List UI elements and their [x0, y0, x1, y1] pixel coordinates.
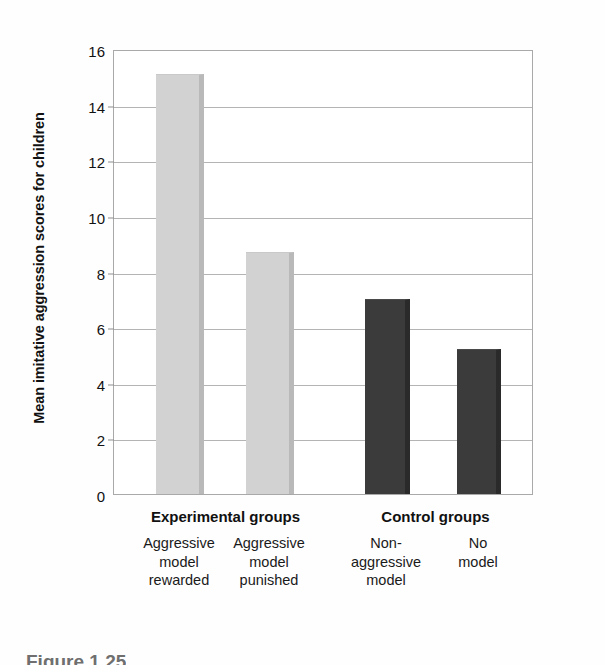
bar-face: [365, 299, 410, 494]
plot-area: 0246810121416: [113, 50, 533, 495]
figure-container: Mean imitative aggression scores for chi…: [0, 0, 605, 665]
y-tick-label: 2: [97, 432, 105, 449]
y-tick-mark: [108, 329, 114, 330]
category-label-line: No: [428, 534, 528, 553]
bar-aggressive-model-rewarded[interactable]: [156, 74, 204, 494]
bar-aggressive-model-punished[interactable]: [246, 252, 294, 494]
figure-caption: Figure 1.25: [26, 651, 126, 665]
y-tick-label: 8: [97, 265, 105, 282]
category-label-non-aggressive-model: Non-aggressivemodel: [328, 534, 444, 590]
y-tick-label: 16: [88, 43, 105, 60]
y-axis-title: Mean imitative aggression scores for chi…: [22, 58, 56, 478]
category-label-line: punished: [210, 571, 328, 590]
category-label-row: AggressivemodelrewardedAggressivemodelpu…: [100, 534, 550, 606]
y-tick-mark: [108, 273, 114, 274]
y-tick-mark: [108, 440, 114, 441]
bar-face: [156, 74, 204, 494]
y-tick-label: 0: [97, 488, 105, 505]
category-label-no-model: Nomodel: [428, 534, 528, 571]
y-tick-label: 14: [88, 98, 105, 115]
bar-no-model[interactable]: [457, 349, 501, 494]
bar-face: [246, 252, 294, 494]
y-tick-label: 4: [97, 376, 105, 393]
category-label-line: Aggressive: [210, 534, 328, 553]
group-header-control: Control groups: [338, 508, 533, 525]
y-tick-mark: [108, 217, 114, 218]
category-label-line: model: [210, 553, 328, 572]
group-header-experimental: Experimental groups: [113, 508, 338, 525]
group-header-row: Experimental groups Control groups: [113, 508, 533, 534]
category-label-aggressive-model-punished: Aggressivemodelpunished: [210, 534, 328, 590]
bar-non-aggressive-model[interactable]: [365, 299, 410, 494]
y-tick-mark: [108, 106, 114, 107]
bar-face: [457, 349, 501, 494]
category-label-line: model: [328, 571, 444, 590]
y-tick-label: 10: [88, 209, 105, 226]
y-tick-label: 6: [97, 321, 105, 338]
y-tick-mark: [108, 384, 114, 385]
y-tick-mark: [108, 162, 114, 163]
category-label-line: aggressive: [328, 553, 444, 572]
category-label-line: Non-: [328, 534, 444, 553]
category-label-line: model: [428, 553, 528, 572]
y-tick-label: 12: [88, 154, 105, 171]
